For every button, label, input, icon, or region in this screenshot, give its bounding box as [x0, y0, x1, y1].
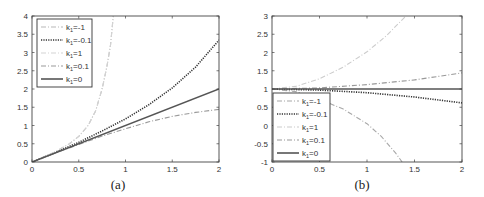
x-tick-label: 0: [270, 165, 275, 174]
y-tick-label: -1: [261, 158, 269, 167]
x-tick-label: 0: [30, 165, 35, 174]
legend-label: k1=-0.1: [302, 110, 328, 120]
series-line-2: [272, 16, 406, 89]
legend-label: k1=-1: [302, 97, 321, 107]
chart-panel-b: 00.511.52-1-0.500.511.522.53k1=-1k1=-0.1…: [254, 12, 465, 192]
x-tick-label: 1.5: [409, 165, 421, 174]
y-tick-label: 0.5: [17, 140, 29, 149]
x-tick-label: 0.5: [314, 165, 326, 174]
panel-caption: (a): [111, 177, 125, 192]
y-tick-label: 3: [24, 49, 29, 58]
legend-label: k1=0.1: [66, 62, 89, 72]
y-tick-label: 0.5: [257, 103, 269, 112]
x-tick-label: 1: [365, 165, 370, 174]
panel-caption: (b): [354, 177, 369, 192]
x-tick-label: 1: [123, 165, 128, 174]
legend-label: k1=0: [302, 149, 319, 159]
legend-label: k1=0.1: [302, 136, 325, 146]
y-tick-label: 1: [264, 85, 269, 94]
legend: k1=-1k1=-0.1k1=1k1=0.1k1=0: [273, 93, 330, 161]
legend-label: k1=-0.1: [66, 36, 92, 46]
y-tick-label: -0.5: [254, 140, 268, 149]
figure: 00.511.5200.511.522.533.54k1=-1k1=-0.1k1…: [0, 0, 484, 197]
x-tick-label: 2: [217, 165, 222, 174]
legend-label: k1=1: [66, 49, 83, 59]
legend-label: k1=1: [302, 123, 319, 133]
y-tick-label: 1: [24, 122, 29, 131]
y-tick-label: 2: [264, 49, 269, 58]
y-tick-label: 4: [24, 12, 29, 21]
y-tick-label: 0: [264, 122, 269, 131]
y-tick-label: 1.5: [257, 67, 269, 76]
x-tick-label: 0.5: [73, 165, 85, 174]
y-tick-label: 3.5: [17, 30, 29, 39]
legend-label: k1=0: [66, 75, 83, 85]
x-tick-label: 2: [460, 165, 465, 174]
y-tick-label: 2: [24, 85, 29, 94]
y-tick-label: 2.5: [257, 30, 269, 39]
y-tick-label: 1.5: [17, 103, 29, 112]
series-line-3: [32, 109, 219, 162]
series-line-4: [32, 89, 219, 162]
y-tick-label: 3: [264, 12, 269, 21]
y-tick-label: 2.5: [17, 67, 29, 76]
chart-panel-a: 00.511.5200.511.522.533.54k1=-1k1=-0.1k1…: [17, 12, 222, 192]
legend-label: k1=-1: [66, 23, 85, 33]
x-tick-label: 1.5: [167, 165, 179, 174]
series-line-3: [272, 73, 462, 89]
y-tick-label: 0: [24, 158, 29, 167]
legend: k1=-1k1=-0.1k1=1k1=0.1k1=0: [37, 19, 92, 87]
